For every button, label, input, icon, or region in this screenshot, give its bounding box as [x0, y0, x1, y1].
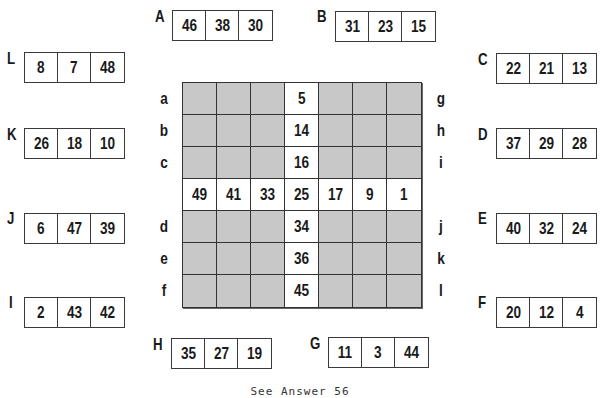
- clue-cell: 2: [25, 298, 58, 327]
- clue-cell: 18: [58, 129, 91, 158]
- clue-values-box: 11 3 44: [328, 337, 429, 368]
- clue-letter: J: [7, 210, 14, 227]
- clue-cell: 47: [58, 214, 91, 243]
- grid-cell-shaded: [183, 275, 217, 307]
- grid-cell-shaded: [353, 147, 387, 179]
- clue-cell: 37: [497, 129, 530, 158]
- clue-values-box: 35 27 19: [171, 338, 272, 369]
- grid-cell-shaded: [183, 83, 217, 115]
- grid-cell-open: 34: [285, 211, 319, 243]
- grid-cell-shaded: [353, 211, 387, 243]
- grid-cell-shaded: [251, 275, 285, 307]
- grid-cell-open: 16: [285, 147, 319, 179]
- clue-cell: 48: [91, 53, 124, 82]
- puzzle-grid: 51416494133251791343645: [182, 82, 422, 308]
- clue-cell: 31: [336, 12, 369, 41]
- clue-cell: 15: [402, 12, 435, 41]
- clue-values-box: 20 12 4: [496, 297, 597, 328]
- clue-values-box: 8 7 48: [24, 52, 125, 83]
- clue-letter: B: [317, 8, 327, 25]
- grid-cell-shaded: [387, 115, 421, 147]
- clue-letter: I: [9, 294, 13, 311]
- clue-values-box: 37 29 28: [496, 128, 597, 159]
- grid-cell-shaded: [319, 83, 353, 115]
- clue-cell: 24: [563, 214, 596, 243]
- grid-cell-shaded: [251, 83, 285, 115]
- grid-cell-shaded: [319, 115, 353, 147]
- clue-cell: 7: [58, 53, 91, 82]
- clue-values-box: 6 47 39: [24, 213, 125, 244]
- clue-letter: H: [153, 336, 163, 353]
- grid-cell-shaded: [353, 115, 387, 147]
- grid-cell-shaded: [217, 147, 251, 179]
- grid-cell-shaded: [319, 147, 353, 179]
- clue-values-box: 22 21 13: [496, 53, 597, 84]
- grid-cell-shaded: [217, 115, 251, 147]
- clue-cell: 21: [530, 54, 563, 83]
- row-label-right: k: [435, 250, 448, 267]
- clue-letter: D: [478, 126, 488, 143]
- clue-letter: A: [155, 8, 165, 25]
- grid-cell-shaded: [251, 211, 285, 243]
- clue-values-box: 2 43 42: [24, 297, 125, 328]
- row-label-right: j: [435, 218, 448, 235]
- row-label-left: e: [158, 250, 171, 267]
- clue-cell: 42: [91, 298, 124, 327]
- clue-cell: 43: [58, 298, 91, 327]
- grid-cell-shaded: [319, 211, 353, 243]
- grid-cell-shaded: [183, 115, 217, 147]
- row-label-right: i: [435, 154, 448, 171]
- clue-cell: 19: [238, 339, 271, 368]
- grid-cell-shaded: [387, 243, 421, 275]
- row-label-right: g: [435, 90, 448, 107]
- grid-cell-open: 1: [387, 179, 421, 211]
- clue-cell: 3: [362, 338, 395, 367]
- clue-cell: 46: [173, 11, 206, 40]
- grid-cell-shaded: [251, 115, 285, 147]
- grid-cell-open: 14: [285, 115, 319, 147]
- grid-cell-shaded: [387, 147, 421, 179]
- grid-cell-open: 49: [183, 179, 217, 211]
- grid-cell-open: 5: [285, 83, 319, 115]
- clue-letter: C: [478, 51, 488, 68]
- clue-cell: 11: [329, 338, 362, 367]
- clue-cell: 4: [563, 298, 596, 327]
- grid-cell-open: 25: [285, 179, 319, 211]
- grid-cell-shaded: [387, 211, 421, 243]
- grid-cell-shaded: [319, 275, 353, 307]
- grid-cell-shaded: [217, 275, 251, 307]
- clue-letter: K: [7, 126, 17, 143]
- grid-cell-open: 33: [251, 179, 285, 211]
- grid-cell-shaded: [251, 147, 285, 179]
- grid-cell-open: 45: [285, 275, 319, 307]
- clue-cell: 40: [497, 214, 530, 243]
- row-label-left: f: [158, 282, 171, 299]
- grid-cell-shaded: [183, 243, 217, 275]
- grid-cell-shaded: [183, 211, 217, 243]
- row-label-right: h: [435, 122, 448, 139]
- clue-cell: 26: [25, 129, 58, 158]
- clue-cell: 28: [563, 129, 596, 158]
- row-label-left: a: [158, 90, 171, 107]
- grid-cell-shaded: [217, 83, 251, 115]
- clue-cell: 22: [497, 54, 530, 83]
- grid-cell-open: 17: [319, 179, 353, 211]
- grid-cell-shaded: [319, 243, 353, 275]
- clue-cell: 8: [25, 53, 58, 82]
- clue-cell: 38: [206, 11, 239, 40]
- answer-reference: See Answer 56: [0, 385, 600, 398]
- row-label-left: b: [158, 122, 171, 139]
- clue-cell: 27: [205, 339, 238, 368]
- grid-cell-shaded: [353, 275, 387, 307]
- clue-cell: 10: [91, 129, 124, 158]
- clue-cell: 30: [239, 11, 272, 40]
- grid-cell-open: 36: [285, 243, 319, 275]
- clue-values-box: 40 32 24: [496, 213, 597, 244]
- grid-cell-shaded: [353, 243, 387, 275]
- row-label-right: l: [435, 282, 448, 299]
- clue-values-box: 46 38 30: [172, 10, 273, 41]
- grid-cell-shaded: [387, 275, 421, 307]
- clue-letter: E: [478, 210, 487, 227]
- row-label-left: c: [158, 154, 171, 171]
- grid-cell-shaded: [387, 83, 421, 115]
